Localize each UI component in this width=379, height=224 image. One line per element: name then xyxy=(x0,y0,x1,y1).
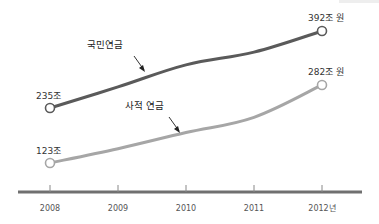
end-value-label: 392조 원 xyxy=(308,13,344,23)
annotation-arrowhead-icon xyxy=(139,65,145,72)
series-name-label: 국민연금 xyxy=(87,39,123,50)
x-axis: 20082009201020112012년 xyxy=(18,185,362,213)
label-layer: 235조392조 원국민연금123조282조 원사적 연금 xyxy=(36,13,344,156)
x-tick-label: 2008 xyxy=(40,204,60,213)
annotation-arrowhead-icon xyxy=(174,126,180,133)
x-tick-label: 2010 xyxy=(176,204,196,213)
x-tick-label: 2012년 xyxy=(308,203,335,213)
start-value-label: 235조 xyxy=(36,91,61,101)
series-name-label: 사적 연금 xyxy=(125,100,164,111)
end-value-label: 282조 원 xyxy=(308,67,344,77)
x-tick-label: 2011 xyxy=(244,204,264,213)
data-point-marker xyxy=(46,158,55,167)
x-tick-label: 2009 xyxy=(108,204,128,213)
line-chart: 20082009201020112012년 235조392조 원국민연금123조… xyxy=(0,0,379,224)
data-point-marker xyxy=(318,27,327,36)
data-point-marker xyxy=(318,80,327,89)
data-point-marker xyxy=(46,104,55,113)
start-value-label: 123조 xyxy=(36,146,61,156)
